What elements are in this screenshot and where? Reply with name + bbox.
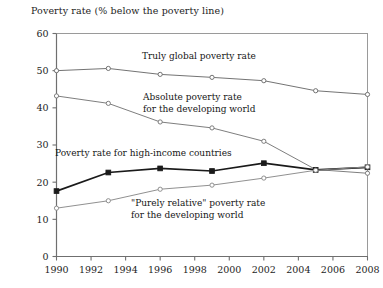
poverty-rate-chart: Poverty rate (% below the poverty line) … — [0, 0, 383, 288]
data-point-marker-open-circle — [106, 66, 110, 70]
data-point-marker-open-circle — [365, 165, 369, 169]
y-tick-label: 60 — [36, 28, 48, 39]
annotation-truly-global: Truly global poverty rate — [142, 51, 256, 61]
data-point-marker-open-circle — [262, 139, 266, 143]
annotation-line: "Purely relative" poverty rate — [131, 198, 265, 208]
data-series-group — [54, 66, 370, 210]
y-tick-label: 40 — [36, 102, 48, 113]
annotation-line: for the developing world — [143, 104, 256, 114]
x-axis-ticks: 1990199219941996199820002002200420062008 — [44, 257, 379, 275]
x-tick-label: 1998 — [183, 264, 207, 275]
annotation-absolute-developing: Absolute poverty ratefor the developing … — [142, 92, 256, 114]
y-tick-label: 30 — [36, 139, 48, 150]
data-point-marker-filled-square — [54, 189, 59, 194]
data-point-marker-open-circle — [106, 101, 110, 105]
x-tick-label: 2004 — [286, 264, 310, 275]
data-point-marker-filled-square — [158, 166, 163, 171]
data-point-marker-filled-square — [106, 170, 111, 175]
data-point-marker-open-circle — [365, 92, 369, 96]
data-point-marker-open-circle — [54, 69, 58, 73]
annotation-high-income: Poverty rate for high-income countries — [55, 148, 232, 158]
annotation-purely-relative: "Purely relative" poverty ratefor the de… — [131, 198, 265, 220]
x-tick-label: 1992 — [79, 264, 103, 275]
data-point-marker-open-circle — [158, 120, 162, 124]
data-point-marker-open-circle — [314, 168, 318, 172]
axes — [56, 33, 368, 257]
x-tick-label: 2000 — [217, 264, 241, 275]
data-point-marker-open-circle — [365, 171, 369, 175]
y-tick-label: 50 — [36, 65, 48, 76]
data-point-marker-open-circle — [314, 89, 318, 93]
x-tick-label: 1990 — [44, 264, 68, 275]
annotation-line: Truly global poverty rate — [142, 51, 256, 61]
data-point-marker-filled-square — [210, 169, 215, 174]
data-point-marker-open-circle — [210, 75, 214, 79]
annotation-line: for the developing world — [131, 210, 244, 220]
x-tick-label: 1994 — [114, 264, 138, 275]
annotation-line: Poverty rate for high-income countries — [55, 148, 232, 158]
y-tick-label: 0 — [42, 251, 48, 262]
data-point-marker-open-circle — [262, 79, 266, 83]
x-tick-label: 1996 — [148, 264, 172, 275]
data-point-marker-open-circle — [262, 176, 266, 180]
series-2 — [54, 161, 370, 194]
series-line — [57, 68, 368, 94]
y-axis-ticks: 0102030405060 — [36, 28, 56, 262]
data-point-marker-open-circle — [158, 187, 162, 191]
y-tick-label: 10 — [36, 214, 48, 225]
data-point-marker-filled-square — [261, 161, 266, 166]
data-point-marker-open-circle — [210, 183, 214, 187]
x-tick-label: 2006 — [321, 264, 345, 275]
data-point-marker-open-circle — [54, 206, 58, 210]
x-tick-label: 2002 — [252, 264, 276, 275]
plot-area: 0102030405060 19901992199419961998200020… — [0, 0, 383, 288]
y-tick-label: 20 — [36, 177, 48, 188]
data-point-marker-open-circle — [210, 126, 214, 130]
x-tick-label: 2008 — [355, 264, 379, 275]
data-point-marker-open-circle — [106, 199, 110, 203]
data-point-marker-open-circle — [54, 94, 58, 98]
data-point-marker-open-circle — [158, 72, 162, 76]
annotation-line: Absolute poverty rate — [142, 92, 242, 102]
